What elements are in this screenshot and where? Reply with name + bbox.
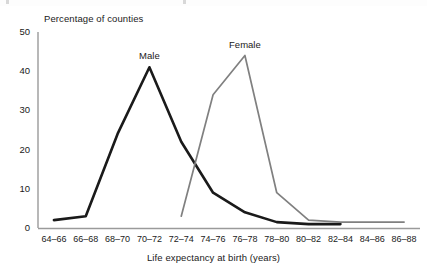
series-line-male (54, 67, 341, 224)
x-axis-title: Life expectancy at birth (years) (0, 252, 427, 263)
series-line-female (181, 56, 404, 223)
series-label-male: Male (133, 50, 165, 61)
series-lines (54, 56, 404, 225)
chart-container: Percentage of counties 50403020100 64–66… (0, 0, 427, 272)
series-label-female: Female (229, 39, 261, 50)
plot-area (0, 0, 427, 272)
x-tick-label: 86–88 (384, 234, 424, 244)
